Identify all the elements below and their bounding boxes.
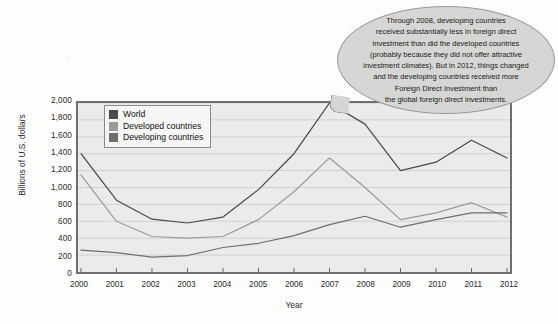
- legend-item: Developing countries: [109, 132, 203, 144]
- y-tick-label: 2,000: [34, 97, 72, 105]
- series-line-developed-countries: [81, 158, 507, 238]
- x-tick-label: 2005: [238, 281, 278, 289]
- x-axis-title: Year: [76, 300, 512, 310]
- y-tick-label: 0: [34, 270, 72, 278]
- y-tick-label: 1,400: [34, 149, 72, 157]
- legend-item-label: World: [123, 110, 145, 119]
- x-tick-label: 2009: [382, 281, 422, 289]
- x-tick-label: 2001: [95, 281, 135, 289]
- legend-item: Developed countries: [109, 121, 203, 133]
- x-tick-label: 2010: [417, 281, 457, 289]
- x-tick-label: 2011: [453, 281, 493, 289]
- x-tick-label: 2008: [346, 281, 386, 289]
- y-tick-label: 1,200: [34, 166, 72, 174]
- series-line-developing-countries: [81, 213, 507, 257]
- y-tick-label: 800: [34, 201, 72, 209]
- legend-swatch-icon: [109, 133, 118, 142]
- x-axis-tick-labels: 2000200120022003200420052006200720082009…: [76, 281, 512, 295]
- y-tick-label: 200: [34, 253, 72, 261]
- legend-swatch-icon: [109, 110, 118, 119]
- y-axis-title: Billions of U.S. dollars: [17, 95, 27, 215]
- x-tick-label: 2007: [310, 281, 350, 289]
- chart-page: 02004006008001,0001,2001,4001,6001,8002,…: [0, 0, 558, 324]
- y-axis-tick-labels: 02004006008001,0001,2001,4001,6001,8002,…: [26, 101, 72, 274]
- legend-item: World: [109, 109, 203, 121]
- y-tick-label: 1,600: [34, 132, 72, 140]
- x-tick-label: 2003: [167, 281, 207, 289]
- x-tick-label: 2012: [489, 281, 529, 289]
- legend-item-label: Developed countries: [123, 122, 201, 131]
- y-tick-label: 400: [34, 235, 72, 243]
- x-tick-label: 2000: [59, 281, 99, 289]
- x-tick-label: 2002: [131, 281, 171, 289]
- callout-bubble: Through 2008, developing countries recei…: [337, 6, 555, 114]
- y-tick-label: 1,800: [34, 114, 72, 122]
- y-tick-label: 600: [34, 218, 72, 226]
- legend-swatch-icon: [109, 122, 118, 131]
- chart-legend: WorldDeveloped countriesDeveloping count…: [104, 105, 211, 148]
- x-tick-label: 2004: [202, 281, 242, 289]
- y-tick-label: 1,000: [34, 184, 72, 192]
- x-tick-label: 2006: [274, 281, 314, 289]
- legend-item-label: Developing countries: [123, 133, 203, 142]
- callout-text: Through 2008, developing countries recei…: [351, 15, 541, 105]
